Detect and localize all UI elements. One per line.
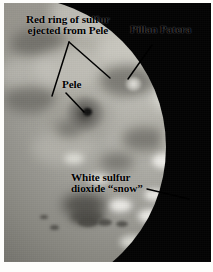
snow-field	[190, 229, 211, 245]
dark-flow	[154, 217, 164, 222]
terrain-patch	[150, 39, 211, 85]
snow-field	[166, 175, 192, 189]
snow-field	[154, 225, 188, 241]
terrain-patch	[197, 27, 204, 32]
annotated-io-photograph: Red ring of sulfur ejected from Pele Pil…	[0, 0, 213, 272]
snow-field	[172, 203, 204, 219]
right-patera-core	[170, 103, 181, 113]
photo-plate	[4, 3, 211, 262]
snow-field	[190, 185, 211, 201]
snow-field	[180, 139, 211, 157]
snow-field	[186, 161, 211, 177]
